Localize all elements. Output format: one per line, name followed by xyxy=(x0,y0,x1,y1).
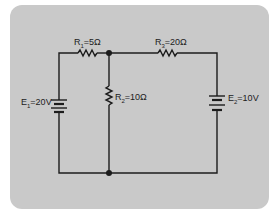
label-e1: E1=20V xyxy=(21,97,52,109)
label-r1: R1=5Ω xyxy=(74,37,101,49)
circuit-diagram: R1=5Ω R3=20Ω R2=10Ω E1=20V E2=10V xyxy=(0,0,274,211)
battery-e1-icon xyxy=(51,100,67,112)
wire-right-top xyxy=(177,53,217,96)
wire-bottom xyxy=(59,110,217,173)
junction-top-icon xyxy=(106,50,112,56)
label-r2: R2=10Ω xyxy=(115,92,147,104)
wire-left-top xyxy=(59,53,78,100)
resistor-r2-icon xyxy=(106,86,112,105)
junction-bottom-icon xyxy=(106,170,112,176)
label-e2: E2=10V xyxy=(228,93,259,105)
resistor-r3-icon xyxy=(158,50,177,56)
resistor-r1-icon xyxy=(78,50,97,56)
battery-e2-icon xyxy=(209,96,225,110)
label-r3: R3=20Ω xyxy=(155,37,187,49)
